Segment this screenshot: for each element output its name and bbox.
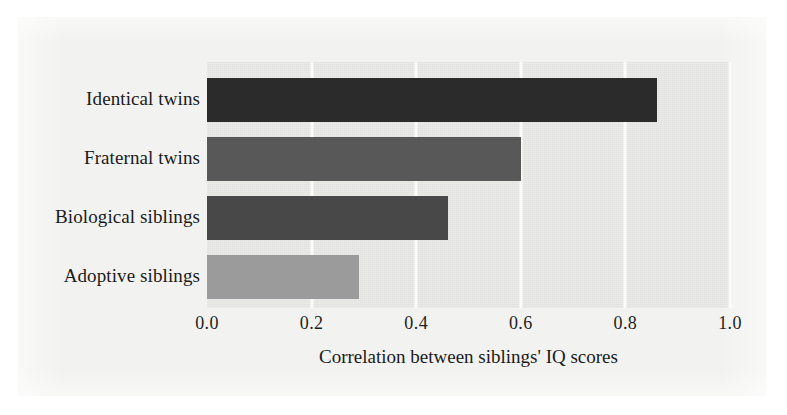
x-tick-0.2: 0.2	[277, 313, 347, 334]
bar-chart: Identical twinsFraternal twinsBiological…	[18, 17, 766, 396]
plot-area	[207, 62, 730, 308]
x-tick-0.6: 0.6	[486, 313, 556, 334]
x-tick-0.0: 0.0	[172, 313, 242, 334]
x-tick-0.8: 0.8	[590, 313, 660, 334]
category-label-identical-twins: Identical twins	[0, 88, 200, 110]
scanned-page-sheet: Identical twinsFraternal twinsBiological…	[18, 17, 766, 396]
category-label-fraternal-twins: Fraternal twins	[0, 147, 200, 169]
category-label-biological-siblings: Biological siblings	[0, 206, 200, 228]
bar-identical-twins[interactable]	[207, 78, 657, 122]
x-axis-title: Correlation between siblings' IQ scores	[207, 346, 730, 368]
bar-fill	[207, 78, 657, 122]
bar-biological-siblings[interactable]	[207, 196, 448, 240]
x-tick-1.0: 1.0	[695, 313, 765, 334]
bar-fill	[207, 137, 521, 181]
bar-fill	[207, 196, 448, 240]
bar-adoptive-siblings[interactable]	[207, 255, 359, 299]
bar-fill	[207, 255, 359, 299]
bar-fraternal-twins[interactable]	[207, 137, 521, 181]
category-label-adoptive-siblings: Adoptive siblings	[0, 265, 200, 287]
x-tick-0.4: 0.4	[381, 313, 451, 334]
gridline-1.0	[729, 62, 732, 308]
